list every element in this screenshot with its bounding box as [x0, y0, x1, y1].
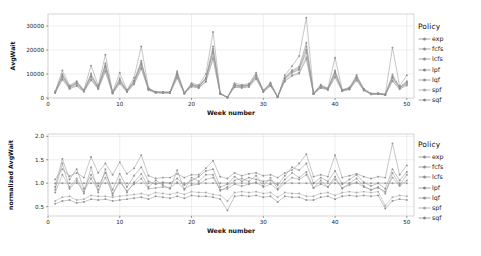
chart-page: 010000200003000001020304050Week numberAv… — [0, 0, 481, 256]
x-tick-label: 20 — [188, 219, 196, 225]
x-tick-label: 10 — [116, 219, 124, 225]
legend-item-lcfs[interactable]: lcfs — [418, 54, 444, 64]
legend-marker-icon — [418, 76, 431, 84]
y-tick-label: 30000 — [26, 23, 44, 29]
legend-marker-icon — [418, 35, 431, 43]
legend-marker-icon — [418, 86, 431, 94]
legend-marker-icon — [418, 96, 431, 104]
plot-avgwait: 010000200003000001020304050Week numberAv… — [0, 0, 420, 128]
legend-marker-icon — [418, 214, 431, 222]
legend-item-lpf[interactable]: lpf — [418, 65, 444, 75]
legend-marker-icon — [418, 163, 431, 171]
legend-item-label: spf — [432, 204, 442, 212]
legend-item-label: sqf — [432, 214, 442, 222]
y-tick-label: 10000 — [26, 71, 44, 77]
legend-marker-icon — [418, 55, 431, 63]
legend-item-label: lqf — [432, 76, 440, 84]
legend-item-label: lqf — [432, 194, 440, 202]
legend-item-label: spf — [432, 86, 442, 94]
legend-marker-icon — [418, 66, 431, 74]
legend-item-label: lcfs — [432, 173, 443, 181]
legend-avgwait: Policy expfcfslcfslpflqfspfsqf — [418, 22, 444, 105]
x-tick-label: 20 — [188, 101, 196, 107]
y-tick-label: 0 — [40, 95, 44, 101]
x-axis-title: Week number — [207, 109, 256, 116]
x-tick-label: 30 — [260, 101, 268, 107]
legend-item-lqf[interactable]: lqf — [418, 75, 444, 85]
y-tick-label: 1.0 — [35, 180, 44, 186]
legend-item-lqf[interactable]: lqf — [418, 193, 444, 203]
legend-item-label: exp — [432, 35, 444, 43]
y-tick-label: 2.0 — [35, 133, 44, 139]
legend-item-spf[interactable]: spf — [418, 203, 444, 213]
legend-item-lpf[interactable]: lpf — [418, 183, 444, 193]
legend-item-label: lcfs — [432, 55, 443, 63]
legend-item-exp[interactable]: exp — [418, 152, 444, 162]
y-axis-title: AvgWait — [9, 42, 17, 71]
y-tick-label: 20000 — [26, 47, 44, 53]
legend-item-label: fcfs — [432, 45, 443, 53]
x-tick-label: 40 — [331, 101, 339, 107]
legend-item-spf[interactable]: spf — [418, 85, 444, 95]
legend-item-label: lpf — [432, 66, 440, 74]
legend-item-label: lpf — [432, 184, 440, 192]
x-tick-label: 40 — [331, 219, 339, 225]
legend-marker-icon — [418, 45, 431, 53]
legend-item-label: exp — [432, 153, 444, 161]
y-tick-label: 1.5 — [35, 157, 44, 163]
legend-item-label: fcfs — [432, 163, 443, 171]
panel-normalized-avgwait: 0.51.01.52.001020304050Week numbernormal… — [0, 128, 481, 256]
x-tick-label: 0 — [46, 101, 50, 107]
x-tick-label: 10 — [116, 101, 124, 107]
y-tick-label: 0.5 — [35, 204, 44, 210]
legend-marker-icon — [418, 204, 431, 212]
normalized-avgwait-plot-svg: 0.51.01.52.001020304050Week numbernormal… — [0, 128, 420, 256]
legend-title: Policy — [418, 140, 444, 149]
legend-item-lcfs[interactable]: lcfs — [418, 172, 444, 182]
x-axis-title: Week number — [207, 227, 256, 234]
legend-marker-icon — [418, 194, 431, 202]
legend-item-exp[interactable]: exp — [418, 34, 444, 44]
legend-items: expfcfslcfslpflqfspfsqf — [418, 34, 444, 105]
x-tick-label: 30 — [260, 219, 268, 225]
x-tick-label: 50 — [403, 101, 411, 107]
legend-marker-icon — [418, 184, 431, 192]
legend-item-sqf[interactable]: sqf — [418, 213, 444, 223]
x-tick-label: 50 — [403, 219, 411, 225]
avgwait-plot-svg: 010000200003000001020304050Week numberAv… — [0, 0, 420, 128]
legend-marker-icon — [418, 153, 431, 161]
y-axis-title: normalized AvgWait — [7, 140, 15, 210]
legend-items: expfcfslcfslpflqfspfsqf — [418, 152, 444, 223]
legend-item-label: sqf — [432, 96, 442, 104]
panel-avgwait: 010000200003000001020304050Week numberAv… — [0, 0, 481, 128]
legend-normalized-avgwait: Policy expfcfslcfslpflqfspfsqf — [418, 140, 444, 223]
legend-item-fcfs[interactable]: fcfs — [418, 162, 444, 172]
legend-item-fcfs[interactable]: fcfs — [418, 44, 444, 54]
x-tick-label: 0 — [46, 219, 50, 225]
legend-title: Policy — [418, 22, 444, 31]
legend-item-sqf[interactable]: sqf — [418, 95, 444, 105]
plot-normalized-avgwait: 0.51.01.52.001020304050Week numbernormal… — [0, 128, 420, 256]
legend-marker-icon — [418, 173, 431, 181]
